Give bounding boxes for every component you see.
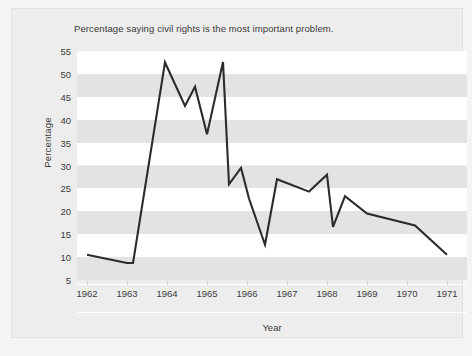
x-tick-mark — [207, 281, 208, 285]
x-tick-label: 1971 — [427, 288, 467, 299]
y-tick-label: 50 — [47, 68, 71, 79]
x-axis-title: Year — [77, 322, 467, 333]
plot-area — [77, 51, 467, 280]
y-tick-label: 30 — [47, 160, 71, 171]
x-tick-mark — [127, 281, 128, 285]
figure-panel: Percentage saying civil rights is the mo… — [11, 8, 463, 338]
x-tick-mark — [247, 281, 248, 285]
data-line-civil-rights — [87, 62, 447, 263]
x-tick-label: 1962 — [67, 288, 107, 299]
y-tick-label: 45 — [47, 91, 71, 102]
y-tick-label: 35 — [47, 137, 71, 148]
series-layer — [77, 51, 467, 280]
chart-title: Percentage saying civil rights is the mo… — [74, 23, 334, 34]
y-tick-label: 40 — [47, 114, 71, 125]
chart-page: Percentage saying civil rights is the mo… — [0, 0, 472, 356]
x-tick-label: 1965 — [187, 288, 227, 299]
x-tick-mark — [367, 281, 368, 285]
x-axis-line — [77, 284, 467, 285]
x-axis-lower-rule — [77, 312, 467, 313]
y-axis-ticks: 510152025303540455055 — [45, 51, 71, 280]
y-tick-label: 15 — [47, 229, 71, 240]
x-tick-label: 1966 — [227, 288, 267, 299]
x-tick-label: 1967 — [267, 288, 307, 299]
x-tick-label: 1968 — [307, 288, 347, 299]
x-tick-label: 1964 — [147, 288, 187, 299]
y-tick-label: 5 — [47, 275, 71, 286]
y-tick-label: 20 — [47, 206, 71, 217]
x-tick-mark — [447, 281, 448, 285]
x-tick-mark — [287, 281, 288, 285]
x-tick-label: 1963 — [107, 288, 147, 299]
y-tick-label: 10 — [47, 252, 71, 263]
x-tick-mark — [87, 281, 88, 285]
y-tick-label: 55 — [47, 46, 71, 57]
x-tick-mark — [167, 281, 168, 285]
x-tick-label: 1969 — [347, 288, 387, 299]
x-tick-label: 1970 — [387, 288, 427, 299]
x-tick-mark — [327, 281, 328, 285]
x-tick-mark — [407, 281, 408, 285]
y-tick-label: 25 — [47, 183, 71, 194]
